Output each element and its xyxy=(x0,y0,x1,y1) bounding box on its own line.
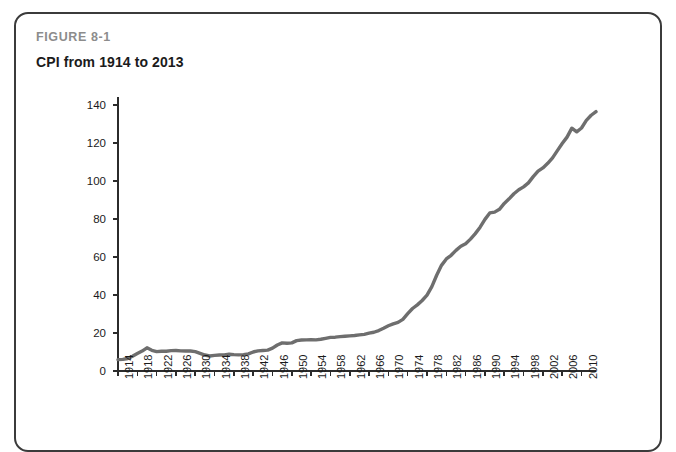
figure-title: CPI from 1914 to 2013 xyxy=(36,54,184,70)
figure-card: FIGURE 8-1 CPI from 1914 to 2013 xyxy=(14,12,662,452)
figure-number-label: FIGURE 8-1 xyxy=(36,30,111,44)
